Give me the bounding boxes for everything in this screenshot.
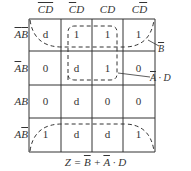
- row-header-1: AB: [2, 28, 28, 40]
- row-header-4: AB: [2, 128, 28, 140]
- cell-r4c2: d: [61, 128, 92, 140]
- cell-r3c2: d: [61, 95, 92, 107]
- cell-r2c3: 1: [92, 62, 123, 74]
- column-header-4: CD: [124, 3, 155, 15]
- column-header-3: CD: [92, 3, 123, 15]
- column-header-1: CD: [30, 3, 61, 15]
- cell-r2c2: d: [61, 62, 92, 74]
- cell-r3c3: 0: [92, 95, 123, 107]
- cell-r1c1: d: [30, 28, 61, 40]
- cell-r3c4: 0: [123, 95, 154, 107]
- row-header-2: AB: [2, 62, 28, 74]
- cell-r1c3: 1: [92, 28, 123, 40]
- cell-r4c1: 1: [30, 128, 61, 140]
- cell-r2c1: 0: [30, 62, 61, 74]
- column-header-2: CD: [61, 3, 92, 15]
- formula: Z = B + A · D: [0, 156, 191, 168]
- cell-r3c1: 0: [30, 95, 61, 107]
- cell-r1c4: 1: [123, 28, 154, 40]
- group-label-b-bar: B: [158, 43, 164, 54]
- cell-r4c3: d: [92, 128, 123, 140]
- cell-r4c4: 1: [123, 128, 154, 140]
- cell-r1c2: 1: [61, 28, 92, 40]
- group-label-abar-d: A · D: [150, 72, 171, 83]
- kmap-grid: [0, 0, 191, 171]
- row-header-3: AB: [2, 95, 28, 107]
